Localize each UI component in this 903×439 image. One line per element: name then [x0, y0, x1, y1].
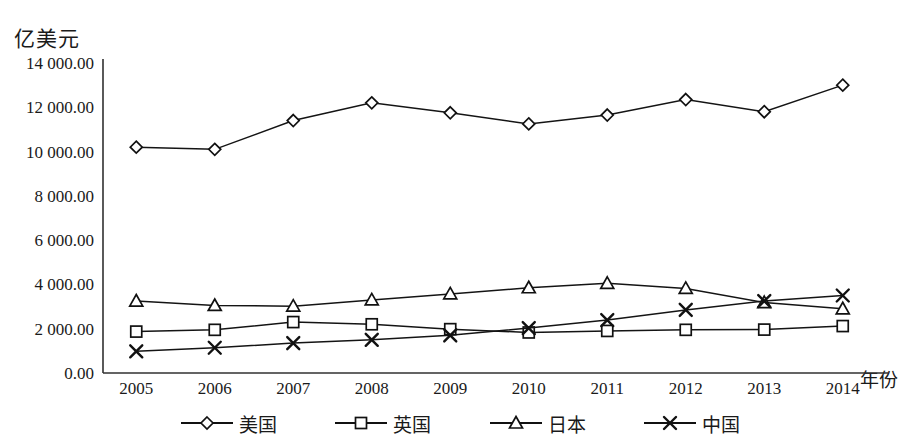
square-marker [209, 324, 220, 335]
triangle-marker [601, 277, 614, 289]
legend-item-cross[interactable]: 中国 [643, 410, 740, 437]
diamond-marker [366, 97, 378, 109]
data-point-diamond [209, 143, 221, 155]
diamond-marker [201, 417, 213, 429]
legend-marker-square-icon [334, 413, 388, 433]
square-marker [602, 325, 613, 336]
data-point-square [356, 418, 367, 429]
square-marker [759, 324, 770, 335]
series-美国 [130, 79, 849, 155]
data-point-diamond [601, 109, 613, 121]
data-point-triangle [130, 295, 143, 307]
legend-item-label: 美国 [239, 410, 277, 437]
data-point-square [366, 319, 377, 330]
data-point-triangle [601, 277, 614, 289]
diamond-marker [209, 143, 221, 155]
data-point-square [209, 324, 220, 335]
plot-area [0, 0, 903, 439]
legend-item-label: 中国 [702, 410, 740, 437]
data-point-square [759, 324, 770, 335]
series-line [136, 283, 843, 308]
data-point-diamond [758, 106, 770, 118]
data-point-square [131, 326, 142, 337]
chart-legend: 美国英国日本中国 [180, 408, 740, 438]
data-point-diamond [680, 94, 692, 106]
series-line [136, 322, 843, 332]
series-line [136, 85, 843, 149]
series-中国 [130, 290, 849, 358]
square-marker [366, 319, 377, 330]
diamond-marker [523, 118, 535, 130]
legend-marker-cross-icon [643, 413, 697, 433]
line-chart: 亿美元 年份 0.002 000.004 000.006 000.008 000… [0, 0, 903, 439]
diamond-marker [680, 94, 692, 106]
legend-item-diamond[interactable]: 美国 [180, 410, 277, 437]
data-point-diamond [366, 97, 378, 109]
diamond-marker [758, 106, 770, 118]
series-line [136, 296, 843, 352]
data-point-diamond [444, 107, 456, 119]
data-point-diamond [201, 417, 213, 429]
data-point-diamond [287, 115, 299, 127]
square-marker [356, 418, 367, 429]
series-英国 [131, 317, 849, 338]
square-marker [837, 321, 848, 332]
data-point-square [680, 324, 691, 335]
data-point-diamond [837, 79, 849, 91]
square-marker [680, 324, 691, 335]
triangle-marker [130, 295, 143, 307]
legend-item-square[interactable]: 英国 [334, 410, 431, 437]
diamond-marker [287, 115, 299, 127]
square-marker [131, 326, 142, 337]
series-日本 [130, 277, 850, 314]
data-point-diamond [523, 118, 535, 130]
square-marker [288, 317, 299, 328]
data-point-square [288, 317, 299, 328]
legend-item-label: 英国 [393, 410, 431, 437]
legend-marker-diamond-icon [180, 413, 234, 433]
data-point-diamond [130, 141, 142, 153]
data-point-square [602, 325, 613, 336]
legend-item-label: 日本 [548, 410, 586, 437]
diamond-marker [837, 79, 849, 91]
data-point-square [837, 321, 848, 332]
diamond-marker [444, 107, 456, 119]
legend-marker-triangle-icon [489, 413, 543, 433]
diamond-marker [601, 109, 613, 121]
diamond-marker [130, 141, 142, 153]
legend-item-triangle[interactable]: 日本 [489, 410, 586, 437]
